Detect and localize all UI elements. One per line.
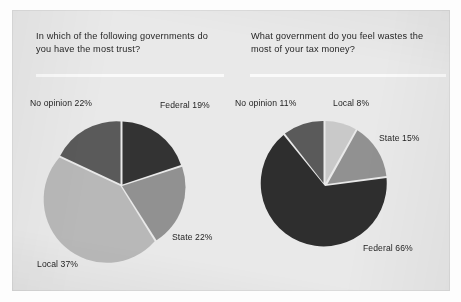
chart-block-trust: In which of the following governments do… <box>12 10 231 291</box>
pie-chart-waste: No opinion 11% Local 8% State 15% Federa… <box>231 10 450 291</box>
pie-label-no-opinion-waste: No opinion 11% <box>235 98 296 108</box>
chart-panel: In which of the following governments do… <box>12 10 450 291</box>
pie-label-no-opinion-trust: No opinion 22% <box>30 98 92 108</box>
figure-canvas: In which of the following governments do… <box>0 0 461 302</box>
pie-label-federal-trust: Federal 19% <box>160 100 210 110</box>
chart-block-waste: What government do you feel wastes the m… <box>231 10 450 291</box>
pie-svg-trust <box>12 10 231 291</box>
pie-label-state-waste: State 15% <box>379 133 420 143</box>
pie-label-state-trust: State 22% <box>172 232 213 242</box>
pie-label-local-waste: Local 8% <box>333 98 369 108</box>
pie-label-federal-waste: Federal 66% <box>363 243 413 253</box>
pie-svg-waste <box>231 10 450 291</box>
pie-label-local-trust: Local 37% <box>37 259 78 269</box>
pie-chart-trust: No opinion 22% Federal 19% State 22% Loc… <box>12 10 231 291</box>
